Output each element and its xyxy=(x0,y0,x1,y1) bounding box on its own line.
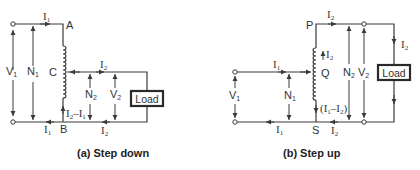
terminal-input-top-b xyxy=(233,70,237,74)
label-i1-bottom: I1 xyxy=(44,123,52,137)
node-a: A xyxy=(66,19,74,31)
terminal-input-bottom-b xyxy=(233,120,237,124)
terminal-input-top xyxy=(11,22,15,26)
wire-tap-c xyxy=(67,72,147,91)
label-n2-b: N2 xyxy=(343,66,355,79)
node-s: S xyxy=(312,124,319,136)
label-i1-bottom-b: I1 xyxy=(276,123,284,137)
wire-top-a xyxy=(15,24,63,46)
label-v1-b: V1 xyxy=(229,89,240,102)
label-i1-input-b: I1 xyxy=(273,58,281,72)
figure-step-down: Load I1 A C B V1 N1 N2 V2 I2 I1 I2 I2–I1… xyxy=(6,10,163,159)
node-q: Q xyxy=(321,67,330,79)
label-i2-bottom-b: I2 xyxy=(331,124,339,138)
load-label-a: Load xyxy=(135,93,159,105)
label-n1: N1 xyxy=(27,65,39,78)
label-coil-current-a: I2–I1 xyxy=(66,107,86,121)
terminal-output-top xyxy=(362,22,366,26)
label-i1-top: I1 xyxy=(43,10,51,24)
terminal-input-bottom xyxy=(11,120,15,124)
label-coil-current-b: (I1–I2) xyxy=(320,102,348,116)
caption-step-up: (b) Step up xyxy=(283,147,341,159)
label-v2-b: V2 xyxy=(358,66,369,79)
label-i2-coil-b: I2 xyxy=(326,48,334,62)
label-i2-top-b: I2 xyxy=(327,8,335,22)
label-n2: N2 xyxy=(85,88,97,101)
node-c: C xyxy=(49,66,57,78)
load-label-b: Load xyxy=(382,67,406,79)
figure-step-up: Load P Q S I2 I2 I2 I1 V1 N1 N2 V2 I1 I2… xyxy=(229,8,410,159)
terminal-output-bottom xyxy=(362,120,366,124)
label-n1-b: N1 xyxy=(284,89,296,102)
node-b: B xyxy=(60,123,67,135)
label-i2-bottom: I2 xyxy=(101,124,109,138)
label-i2-tap: I2 xyxy=(100,58,108,72)
label-i2-load-b: I2 xyxy=(401,38,409,52)
caption-step-down: (a) Step down xyxy=(77,147,149,159)
label-v1: V1 xyxy=(6,65,17,78)
node-p: P xyxy=(306,19,313,31)
coil-a xyxy=(63,46,66,98)
label-v2: V2 xyxy=(110,88,121,101)
coil-b xyxy=(313,48,316,100)
autotransformer-diagrams: Load I1 A C B V1 N1 N2 V2 I2 I1 I2 I2–I1… xyxy=(0,0,420,170)
